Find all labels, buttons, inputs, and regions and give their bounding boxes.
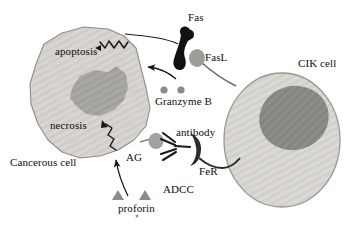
label-antibody: antibody xyxy=(176,127,215,138)
label-apoptosis: apoptosis xyxy=(55,46,97,57)
granzyme-arrow xyxy=(148,67,176,79)
label-cik-cell: CIK cell xyxy=(298,58,336,69)
label-fer: FeR xyxy=(199,166,218,177)
cik-cancer-cell-diagram: apoptosis necrosis Cancerous cell Fas Fa… xyxy=(0,0,353,229)
label-necrosis: necrosis xyxy=(50,120,87,131)
fas-binding-line xyxy=(125,34,178,44)
label-fasl: FasL xyxy=(205,52,227,63)
label-ag: AG xyxy=(126,152,142,163)
ag-icon xyxy=(140,133,164,149)
label-adcc: ADCC xyxy=(163,184,194,195)
label-cancerous-cell: Cancerous cell xyxy=(10,157,76,168)
label-proforin: proforin xyxy=(118,203,155,214)
label-fas: Fas xyxy=(188,12,204,23)
granzyme-b-icon xyxy=(160,86,184,93)
label-granzyme-b: Granzyme B xyxy=(155,96,212,107)
cik-cell-body xyxy=(224,73,340,207)
